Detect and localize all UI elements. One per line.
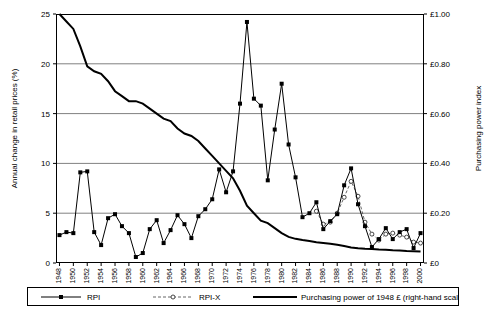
svg-text:RPI: RPI — [87, 293, 100, 302]
svg-text:1966: 1966 — [180, 268, 187, 284]
svg-text:£0.80: £0.80 — [430, 60, 451, 69]
svg-text:20: 20 — [41, 60, 50, 69]
y-axis-left-title-wrap: Annual change in retail prices (%) — [2, 14, 16, 263]
svg-text:1960: 1960 — [139, 268, 146, 284]
y-axis-right-title-wrap: Purchasing power index — [466, 14, 480, 263]
svg-text:1956: 1956 — [111, 268, 118, 284]
svg-text:1948: 1948 — [55, 268, 62, 284]
svg-text:1952: 1952 — [83, 268, 90, 284]
y-axis-right-title: Purchasing power index — [474, 13, 483, 245]
svg-text:1958: 1958 — [125, 268, 132, 284]
svg-text:1996: 1996 — [389, 268, 396, 284]
svg-text:RPI-X: RPI-X — [199, 293, 221, 302]
svg-text:1982: 1982 — [291, 268, 298, 284]
svg-text:1984: 1984 — [305, 268, 312, 284]
y-axis-left-title: Annual change in retail prices (%) — [10, 13, 19, 245]
legend-content: RPIRPI-XPurchasing power of 1948 £ (righ… — [27, 287, 459, 306]
svg-text:1992: 1992 — [361, 268, 368, 284]
svg-text:1976: 1976 — [250, 268, 257, 284]
svg-text:5: 5 — [46, 209, 51, 218]
svg-text:1968: 1968 — [194, 268, 201, 284]
svg-text:1990: 1990 — [347, 268, 354, 284]
svg-text:£1.00: £1.00 — [430, 10, 451, 19]
svg-text:1974: 1974 — [236, 268, 243, 284]
svg-text:25: 25 — [41, 10, 50, 19]
svg-text:£0.20: £0.20 — [430, 209, 451, 218]
svg-text:1978: 1978 — [264, 268, 271, 284]
svg-text:2000: 2000 — [416, 268, 423, 284]
svg-text:£0.40: £0.40 — [430, 159, 451, 168]
svg-text:1954: 1954 — [97, 268, 104, 284]
svg-text:1994: 1994 — [375, 268, 382, 284]
chart-container: Annual change in retail prices (%) Purch… — [0, 0, 486, 321]
svg-text:1950: 1950 — [69, 268, 76, 284]
svg-text:1962: 1962 — [153, 268, 160, 284]
svg-text:1988: 1988 — [333, 268, 340, 284]
svg-text:0: 0 — [46, 259, 51, 268]
svg-text:1970: 1970 — [208, 268, 215, 284]
svg-text:£0: £0 — [430, 259, 439, 268]
svg-text:15: 15 — [41, 110, 50, 119]
svg-text:1998: 1998 — [402, 268, 409, 284]
svg-text:Purchasing power of 1948 £ (ri: Purchasing power of 1948 £ (right-hand s… — [301, 293, 459, 302]
svg-text:1972: 1972 — [222, 268, 229, 284]
svg-text:10: 10 — [41, 159, 50, 168]
svg-text:1986: 1986 — [319, 268, 326, 284]
svg-text:£0.60: £0.60 — [430, 110, 451, 119]
svg-text:1964: 1964 — [166, 268, 173, 284]
chart-plot: 0510152025£0£0.20£0.40£0.60£0.80£1.00194… — [0, 0, 486, 321]
svg-text:1980: 1980 — [278, 268, 285, 284]
